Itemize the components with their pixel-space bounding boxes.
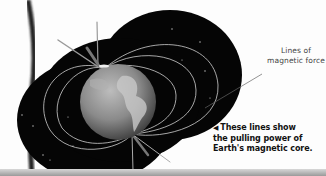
field-label-line2: magnetic force	[256, 56, 326, 66]
earth-globe-icon	[80, 64, 156, 140]
caption-line1: ◀These lines show	[213, 123, 326, 134]
field-label-line1: Lines of	[256, 46, 326, 56]
magnetic-field-illustration: Lines of magnetic force ◀These lines sho…	[0, 0, 326, 176]
field-label: Lines of magnetic force	[256, 46, 326, 66]
left-arrow-icon: ◀	[213, 124, 218, 132]
caption-line3: Earth's magnetic core.	[213, 144, 326, 155]
caption-line2: the pulling power of	[213, 134, 326, 145]
caption: ◀These lines show the pulling power of E…	[213, 123, 326, 155]
page-bottom-edge	[0, 169, 326, 176]
